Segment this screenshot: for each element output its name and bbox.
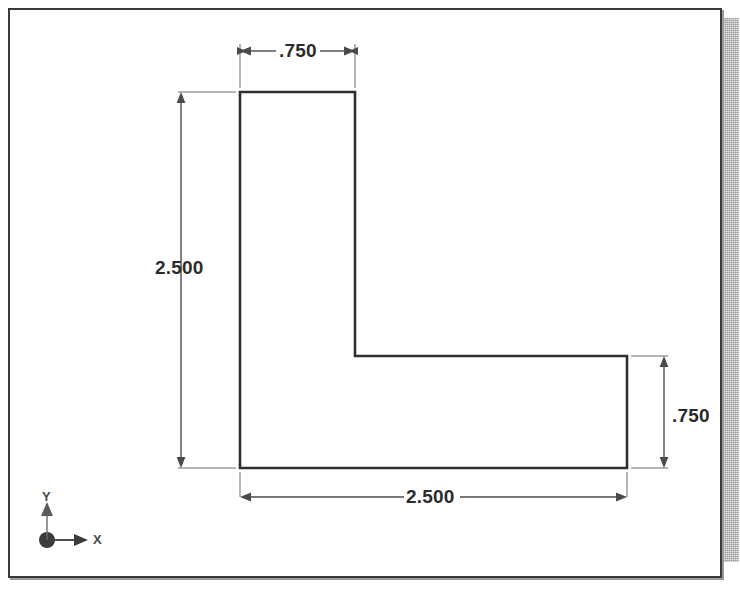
frame-shadow-bottom xyxy=(10,578,724,580)
vertical-scrollbar[interactable] xyxy=(724,18,739,562)
dimension-label-top-width: .750 xyxy=(279,40,317,62)
drawing-canvas-frame xyxy=(8,8,722,578)
x-axis-label: X xyxy=(93,532,102,547)
dimension-label-left-height: 2.500 xyxy=(155,257,204,279)
y-axis-label: Y xyxy=(42,489,51,504)
cad-drawing-window: .750 2.500 2.500 .750 Y X xyxy=(0,0,740,592)
dimension-label-bottom-width: 2.500 xyxy=(406,486,455,508)
dimension-label-right-height: .750 xyxy=(672,405,710,427)
